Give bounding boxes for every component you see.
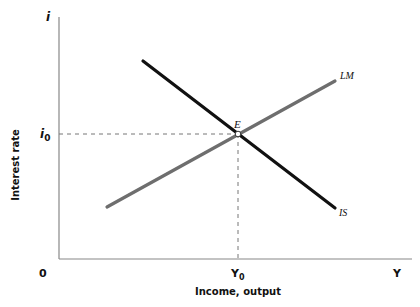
lm-curve — [107, 81, 335, 207]
lm-label: LM — [339, 70, 355, 81]
origin-label: 0 — [39, 267, 47, 280]
equilibrium-point — [235, 131, 241, 137]
y0-tick-label: Y0 — [230, 267, 245, 282]
x-axis-symbol: Y — [392, 267, 402, 280]
is-label: IS — [338, 207, 347, 218]
y-axis-symbol: i — [46, 10, 51, 24]
is-lm-chart: E LM IS i i0 0 Y0 Y Income, output Inter… — [0, 0, 420, 307]
y-axis-title: Interest rate — [10, 129, 21, 201]
i0-tick-label: i0 — [40, 127, 50, 143]
x-axis-title: Income, output — [195, 286, 281, 297]
equilibrium-label: E — [233, 118, 241, 130]
